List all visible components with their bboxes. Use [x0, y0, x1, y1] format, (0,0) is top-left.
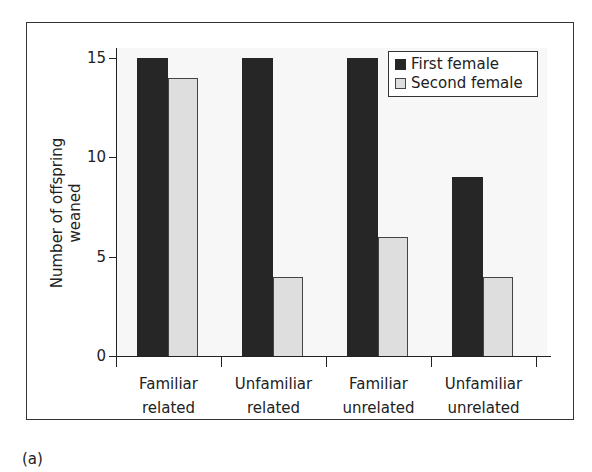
legend-label-first: First female: [411, 55, 499, 74]
y-tick-label: 15: [70, 50, 106, 66]
y-tick-label: 5: [70, 249, 106, 265]
y-tick: [109, 58, 116, 59]
y-tick: [109, 257, 116, 258]
legend-swatch-first: [395, 59, 406, 70]
x-tick: [326, 356, 327, 367]
bar-second-female: [273, 277, 303, 356]
legend-item-first-female: First female: [395, 55, 531, 74]
bar-first-female: [242, 58, 273, 356]
y-tick: [109, 356, 116, 357]
bar-second-female: [483, 277, 513, 356]
legend-item-second-female: Second female: [395, 74, 531, 93]
x-tick: [431, 356, 432, 367]
x-category-label: Familiarrelated: [117, 372, 221, 420]
panel-label: (a): [22, 450, 43, 468]
bar-first-female: [137, 58, 168, 356]
bar-first-female: [452, 177, 483, 356]
x-tick: [221, 356, 222, 367]
bar-second-female: [378, 237, 408, 356]
x-category-label: Unfamiliarunrelated: [432, 372, 536, 420]
bar-second-female: [168, 78, 198, 356]
y-tick: [109, 157, 116, 158]
legend: First female Second female: [388, 51, 538, 97]
y-tick-label: 10: [70, 149, 106, 165]
bar-first-female: [347, 58, 378, 356]
legend-swatch-second: [395, 78, 406, 89]
y-tick-label: 0: [70, 348, 106, 364]
x-axis: [116, 356, 551, 357]
x-tick: [116, 356, 117, 367]
y-axis: [116, 48, 117, 357]
x-category-label: Unfamiliarrelated: [222, 372, 326, 420]
legend-label-second: Second female: [411, 74, 523, 93]
x-category-label: Familiarunrelated: [327, 372, 431, 420]
x-tick: [536, 356, 537, 367]
